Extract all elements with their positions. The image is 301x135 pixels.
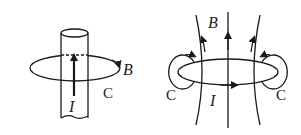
loop-c-left bbox=[169, 55, 194, 89]
loop-c-direction-arrow bbox=[112, 60, 119, 66]
straight-wire-diagram bbox=[30, 29, 120, 118]
field-line-right bbox=[254, 15, 260, 125]
label-i-left: I bbox=[68, 98, 75, 115]
label-b-left: B bbox=[123, 61, 133, 78]
diagram-canvas: B C I B C C I bbox=[0, 0, 301, 135]
field-line-left bbox=[196, 15, 202, 125]
label-c-left: C bbox=[103, 85, 113, 101]
current-loop-diagram bbox=[169, 12, 288, 128]
label-b-right: B bbox=[208, 14, 218, 31]
label-c-right-right: C bbox=[276, 87, 286, 103]
label-i-right: I bbox=[209, 92, 216, 109]
label-c-right-left: C bbox=[166, 87, 176, 103]
loop-c-right bbox=[262, 55, 287, 89]
